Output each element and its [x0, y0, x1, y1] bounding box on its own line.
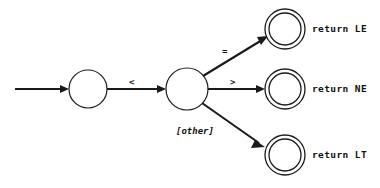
edge-label-eq: = [222, 47, 227, 56]
transition-edge-eq [203, 36, 268, 76]
accepting-state-lt[interactable] [265, 135, 305, 175]
edge-label-gt: > [230, 78, 235, 87]
transition-edge-gt [208, 85, 265, 93]
accepting-state-ne[interactable] [265, 69, 305, 109]
accept-label-ne: return NE [312, 84, 367, 94]
state-node-s1[interactable] [166, 68, 208, 110]
accept-label-lt: return LT [312, 150, 367, 160]
start-arrow [15, 85, 69, 93]
edge-label-lt: < [129, 78, 134, 87]
state-node-s0[interactable] [69, 70, 107, 108]
transition-edge-lt [107, 85, 166, 93]
edge-label-other: [other] [176, 127, 214, 136]
accepting-state-le[interactable] [265, 9, 305, 49]
accept-label-le: return LE [312, 24, 367, 34]
state-machine-diagram: < = > [other] return LE return NE return… [0, 0, 380, 188]
